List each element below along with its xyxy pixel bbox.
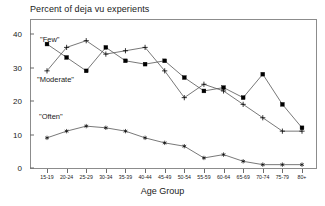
x-tick-mark bbox=[86, 169, 87, 173]
x-tick-mark bbox=[302, 169, 303, 173]
x-tick-label: 15-19 bbox=[40, 174, 53, 180]
x-tick-mark bbox=[224, 169, 225, 173]
x-tick-label: 70-74 bbox=[256, 174, 269, 180]
x-tick-mark bbox=[282, 169, 283, 173]
y-tick-mark bbox=[30, 34, 34, 35]
x-tick-mark bbox=[243, 169, 244, 173]
x-tick-mark bbox=[165, 169, 166, 173]
x-tick-label: 60-64 bbox=[217, 174, 230, 180]
x-tick-label: 20-24 bbox=[60, 174, 73, 180]
x-tick-label: 55-59 bbox=[197, 174, 210, 180]
y-tick-label: 20 bbox=[4, 97, 22, 106]
y-tick-label: 30 bbox=[4, 63, 22, 72]
series-label-moderate: "Moderate" bbox=[37, 75, 74, 84]
x-tick-mark bbox=[145, 169, 146, 173]
x-tick-label: 65-69 bbox=[237, 174, 250, 180]
y-tick-mark bbox=[30, 168, 34, 169]
x-tick-mark bbox=[263, 169, 264, 173]
x-tick-mark bbox=[47, 169, 48, 173]
x-tick-label: 50-54 bbox=[178, 174, 191, 180]
series-label-few: "Few" bbox=[40, 35, 60, 44]
y-tick-label: 40 bbox=[4, 30, 22, 39]
chart-title: Percent of deja vu experients bbox=[30, 4, 149, 14]
x-tick-label: 30-34 bbox=[99, 174, 112, 180]
chart-container: Percent of deja vu experients 010203040 … bbox=[0, 0, 325, 206]
y-tick-label: 0 bbox=[4, 164, 22, 173]
y-tick-mark bbox=[30, 101, 34, 102]
x-tick-label: 25-29 bbox=[80, 174, 93, 180]
x-tick-mark bbox=[125, 169, 126, 173]
x-axis-title: Age Group bbox=[0, 186, 325, 196]
x-tick-mark bbox=[184, 169, 185, 173]
x-tick-label: 80+ bbox=[298, 174, 307, 180]
x-tick-label: 75-79 bbox=[276, 174, 289, 180]
x-tick-label: 35-39 bbox=[119, 174, 132, 180]
x-tick-mark bbox=[204, 169, 205, 173]
x-tick-label: 40-44 bbox=[138, 174, 151, 180]
x-tick-mark bbox=[67, 169, 68, 173]
y-tick-mark bbox=[30, 67, 34, 68]
x-tick-mark bbox=[106, 169, 107, 173]
plot-area bbox=[30, 19, 317, 169]
x-tick-label: 45-49 bbox=[158, 174, 171, 180]
y-tick-label: 10 bbox=[4, 130, 22, 139]
series-label-often: "Often" bbox=[39, 112, 63, 121]
y-tick-mark bbox=[30, 134, 34, 135]
